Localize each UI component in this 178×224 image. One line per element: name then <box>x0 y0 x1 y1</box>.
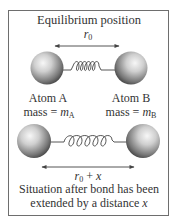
atom-a-sphere <box>31 52 64 85</box>
bond-spring-icon <box>63 62 115 71</box>
atom-b-sphere-extended <box>126 124 160 158</box>
atom-b-label: Atom B <box>112 91 150 106</box>
caption-line-2: extended by a distance x <box>30 196 147 211</box>
atom-a-mass: mass = mA <box>23 105 74 120</box>
atom-b-mass: mass = mB <box>106 105 157 120</box>
atom-b-sphere <box>115 52 148 85</box>
caption-line-1: Situation after bond has been <box>19 182 159 197</box>
atom-a-sphere-extended <box>17 124 51 158</box>
extended-bond-spring-icon <box>50 136 127 147</box>
atom-a-label: Atom A <box>29 91 67 106</box>
